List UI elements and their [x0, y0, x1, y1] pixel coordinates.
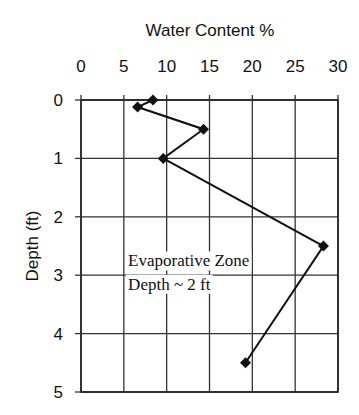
diamond-marker — [240, 357, 251, 368]
annotation-text: Evaporative Zone — [128, 251, 249, 270]
x-tick-label: 30 — [329, 57, 348, 76]
grid-lines — [81, 100, 338, 392]
x-tick-label: 25 — [286, 57, 305, 76]
annotations: Evaporative ZoneDepth ~ 2 ft — [126, 251, 251, 293]
x-tick-label: 0 — [76, 57, 85, 76]
y-axis-label: Depth (ft) — [23, 211, 42, 282]
y-tick-label: 5 — [54, 383, 63, 402]
x-tick-label: 10 — [157, 57, 176, 76]
y-tick-label: 3 — [54, 266, 63, 285]
annotation-text: Depth ~ 2 ft — [128, 275, 211, 294]
y-tick-label: 1 — [54, 149, 63, 168]
diamond-marker — [132, 102, 143, 113]
y-tick-label: 2 — [54, 208, 63, 227]
x-tick-label: 15 — [200, 57, 219, 76]
chart-title: Water Content % — [146, 21, 275, 40]
x-axis-tick-labels: 051015202530 — [76, 57, 347, 76]
diamond-marker — [318, 241, 329, 252]
y-axis-tick-labels: 012345 — [54, 91, 63, 402]
diamond-marker — [147, 95, 158, 106]
x-tick-label: 5 — [119, 57, 128, 76]
water-content-depth-chart: Water Content % 051015202530 012345 Dept… — [0, 0, 359, 415]
axis-ticks — [75, 95, 338, 392]
y-tick-label: 0 — [54, 91, 63, 110]
data-markers — [132, 95, 329, 369]
x-tick-label: 20 — [243, 57, 262, 76]
y-tick-label: 4 — [54, 325, 63, 344]
